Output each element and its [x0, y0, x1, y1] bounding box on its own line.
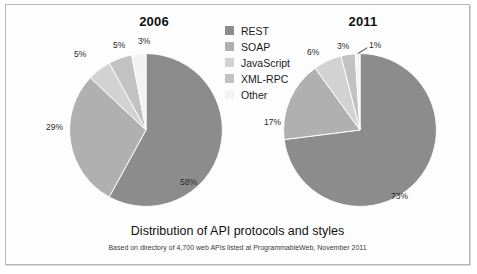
slice-label-2006-rest: 58%: [180, 177, 197, 187]
slice-label-2006-soap: 29%: [46, 122, 63, 132]
slice-label-2006-javascript: 5%: [74, 49, 86, 59]
slice-label-2011-javascript: 6%: [307, 47, 319, 57]
slice-label-2006-other: 3%: [138, 36, 150, 46]
chart-title: Distribution of API protocols and styles: [6, 224, 469, 238]
pie-svg-2011: [282, 52, 438, 208]
figure-frame: 2006 2011 REST SOAP JavaScript XML-RPC O…: [5, 4, 470, 265]
legend-swatch-javascript: [225, 58, 234, 67]
chart-subtitle: Based on directory of 4,700 web APIs lis…: [6, 244, 469, 251]
legend-item-rest: REST: [225, 23, 320, 38]
legend-label-other: Other: [241, 89, 267, 101]
slice-label-2006-xmlrpc: 5%: [113, 40, 125, 50]
pie-svg-2006: [68, 52, 224, 208]
pie-chart-2011: [282, 52, 438, 208]
pie-chart-2006: [68, 52, 224, 208]
panel-title-2011: 2011: [328, 14, 398, 29]
slice-label-2011-soap: 17%: [264, 117, 281, 127]
legend-swatch-other: [225, 90, 234, 99]
legend-label-soap: SOAP: [241, 41, 270, 53]
slice-label-2011-other: 1%: [369, 40, 381, 50]
legend-swatch-xmlrpc: [225, 74, 234, 83]
panel-title-2006: 2006: [119, 14, 189, 29]
legend-swatch-soap: [225, 42, 234, 51]
slice-label-2011-rest: 73%: [391, 191, 408, 201]
legend-swatch-rest: [225, 26, 234, 35]
legend-label-rest: REST: [241, 25, 269, 37]
slice-label-2011-xmlrpc: 3%: [337, 41, 349, 51]
